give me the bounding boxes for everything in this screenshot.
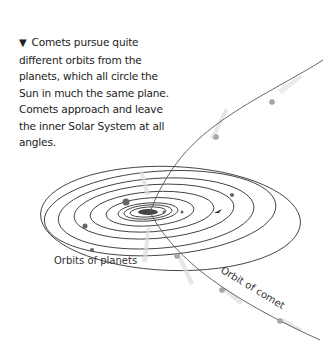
planet-marker-icon (214, 209, 222, 213)
planets-orbit-label: Orbits of planets (54, 255, 137, 266)
orbit-diagram: Orbit of comet (0, 0, 333, 353)
comet-orbit-label: Orbit of comet (219, 264, 287, 311)
planet-orbits (32, 144, 310, 293)
sun-icon (138, 209, 158, 215)
